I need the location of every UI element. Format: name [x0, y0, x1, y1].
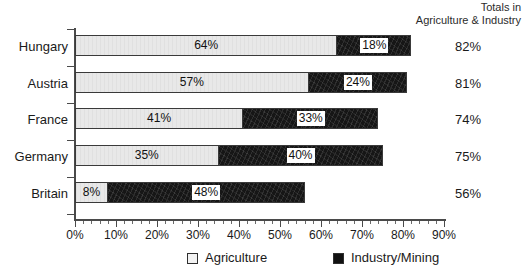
- totals-header-line-2: Agriculture & Industry: [341, 14, 521, 27]
- total-value-germany: 75%: [455, 150, 505, 164]
- x-axis-label-80: 80%: [391, 228, 415, 242]
- x-axis-minor-tick: [231, 221, 232, 224]
- category-label-germany: Germany: [0, 150, 68, 164]
- y-axis-tick-1: [67, 66, 75, 67]
- bar-value-agriculture-britain: 8%: [83, 185, 100, 200]
- x-axis-minor-tick: [247, 221, 248, 224]
- x-axis-label-60: 60%: [309, 228, 333, 242]
- x-axis-line: [74, 219, 446, 221]
- x-axis-minor-tick: [370, 221, 371, 224]
- total-value-britain: 56%: [455, 187, 505, 201]
- x-axis-minor-tick: [436, 221, 437, 224]
- total-value-france: 74%: [455, 113, 505, 127]
- x-axis-label-10: 10%: [104, 228, 128, 242]
- x-axis-minor-tick: [223, 221, 224, 224]
- bar-value-industry-mining-austria: 24%: [344, 75, 372, 90]
- y-axis-tick-5: [67, 214, 75, 215]
- x-axis-label-50: 50%: [268, 228, 292, 242]
- x-axis-major-tick-90: [444, 221, 445, 227]
- x-axis-label-90: 90%: [432, 228, 456, 242]
- category-label-austria: Austria: [0, 77, 68, 91]
- x-axis-major-tick-40: [239, 221, 240, 227]
- x-axis-minor-tick: [165, 221, 166, 224]
- legend-item-industry-mining: Industry/Mining: [333, 250, 439, 266]
- category-label-france: France: [0, 113, 68, 127]
- y-axis-tick-2: [67, 103, 75, 104]
- x-axis-major-tick-0: [75, 221, 76, 227]
- legend-swatch-agriculture-icon: [187, 253, 198, 264]
- x-axis-minor-tick: [182, 221, 183, 224]
- x-axis-minor-tick: [190, 221, 191, 224]
- x-axis-minor-tick: [91, 221, 92, 224]
- x-axis-minor-tick: [296, 221, 297, 224]
- x-axis-minor-tick: [288, 221, 289, 224]
- x-axis-minor-tick: [206, 221, 207, 224]
- x-axis-major-tick-70: [362, 221, 363, 227]
- x-axis-minor-tick: [305, 221, 306, 224]
- x-axis-minor-tick: [272, 221, 273, 224]
- x-axis-minor-tick: [149, 221, 150, 224]
- totals-header-line-1: Totals in: [341, 1, 521, 14]
- x-axis-minor-tick: [313, 221, 314, 224]
- x-axis-minor-tick: [419, 221, 420, 224]
- x-axis-major-tick-10: [116, 221, 117, 227]
- total-value-austria: 81%: [455, 77, 505, 91]
- stacked-bar-chart: Totals in Agriculture & Industry Hungary…: [0, 0, 529, 276]
- totals-column-header: Totals in Agriculture & Industry: [341, 1, 521, 27]
- x-axis-minor-tick: [346, 221, 347, 224]
- bar-value-industry-mining-britain: 48%: [192, 185, 220, 200]
- x-axis-minor-tick: [124, 221, 125, 224]
- bar-value-industry-mining-germany: 40%: [286, 148, 314, 163]
- x-axis-minor-tick: [329, 221, 330, 224]
- bar-value-agriculture-france: 41%: [147, 111, 171, 126]
- y-axis-tick-3: [67, 140, 75, 141]
- total-value-hungary: 82%: [455, 40, 505, 54]
- y-axis-tick-0: [67, 29, 75, 30]
- x-axis-minor-tick: [108, 221, 109, 224]
- chart-legend: Agriculture Industry/Mining: [0, 250, 529, 272]
- x-axis-label-0: 0%: [66, 228, 83, 242]
- x-axis-major-tick-50: [280, 221, 281, 227]
- y-axis-tick-4: [67, 177, 75, 178]
- x-axis-minor-tick: [83, 221, 84, 224]
- x-axis-minor-tick: [100, 221, 101, 224]
- category-label-hungary: Hungary: [0, 40, 68, 54]
- x-axis-minor-tick: [411, 221, 412, 224]
- x-axis-label-30: 30%: [186, 228, 210, 242]
- x-axis-minor-tick: [132, 221, 133, 224]
- category-label-britain: Britain: [0, 187, 68, 201]
- x-axis-label-40: 40%: [227, 228, 251, 242]
- legend-label-industry-mining: Industry/Mining: [351, 250, 439, 266]
- x-axis-minor-tick: [395, 221, 396, 224]
- x-axis-minor-tick: [387, 221, 388, 224]
- x-axis-minor-tick: [354, 221, 355, 224]
- x-axis-minor-tick: [337, 221, 338, 224]
- x-axis-minor-tick: [173, 221, 174, 224]
- x-axis-major-tick-20: [157, 221, 158, 227]
- legend-item-agriculture: Agriculture: [187, 250, 267, 266]
- x-axis-major-tick-80: [403, 221, 404, 227]
- legend-swatch-industry-mining-icon: [333, 253, 344, 264]
- bar-value-agriculture-germany: 35%: [135, 148, 159, 163]
- legend-label-agriculture: Agriculture: [205, 250, 267, 266]
- bar-value-industry-mining-hungary: 18%: [360, 38, 388, 53]
- x-axis-minor-tick: [255, 221, 256, 224]
- x-axis-minor-tick: [428, 221, 429, 224]
- x-axis-minor-tick: [214, 221, 215, 224]
- x-axis-minor-tick: [264, 221, 265, 224]
- bar-value-agriculture-austria: 57%: [180, 75, 204, 90]
- x-axis-minor-tick: [378, 221, 379, 224]
- x-axis-label-20: 20%: [145, 228, 169, 242]
- x-axis-major-tick-60: [321, 221, 322, 227]
- x-axis-major-tick-30: [198, 221, 199, 227]
- bar-value-industry-mining-france: 33%: [297, 111, 325, 126]
- bar-value-agriculture-hungary: 64%: [194, 38, 218, 53]
- x-axis-minor-tick: [141, 221, 142, 224]
- x-axis-label-70: 70%: [350, 228, 374, 242]
